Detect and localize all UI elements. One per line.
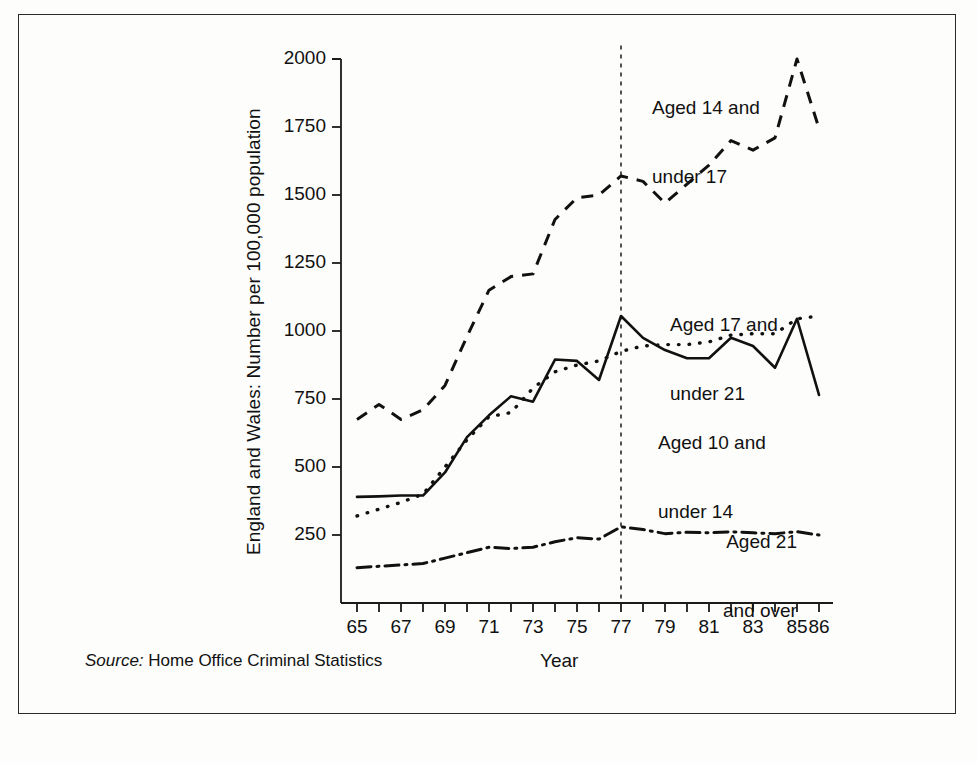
y-axis-tick-label: 1500 [240,183,326,205]
figure-page: England and Wales: Number per 100,000 po… [0,0,978,763]
annotation-aged-10-14-line1: Aged 10 and [658,431,766,454]
y-axis-tick-label: 250 [240,523,326,545]
y-axis-tick-label: 750 [240,387,326,409]
x-axis-tick-label: 69 [420,616,470,638]
x-axis-tick-label: 75 [552,616,602,638]
annotation-aged-14-17: Aged 14 and under 17 [652,50,760,234]
annotation-aged-14-17-line1: Aged 14 and [652,96,760,119]
x-axis-tick-label: 83 [728,616,778,638]
annotation-aged-17-21-line1: Aged 17 and [670,313,778,336]
y-axis-tick-label: 1250 [240,251,326,273]
y-axis-tick-label: 1000 [240,319,326,341]
x-axis-tick-label: 73 [508,616,558,638]
x-axis-tick-label: 81 [684,616,734,638]
chart-canvas [0,0,978,763]
annotation-aged-21-over: Aged 21 and over [723,484,797,668]
x-axis-tick-label: 71 [464,616,514,638]
x-axis-tick-label: 65 [332,616,382,638]
x-axis-tick-label: 79 [640,616,690,638]
y-axis-tick-label: 500 [240,455,326,477]
x-axis-tick-label: 67 [376,616,426,638]
y-axis-tick-label: 1750 [240,115,326,137]
x-axis-tick-label: 86 [794,616,844,638]
annotation-aged-21-over-line1: Aged 21 [723,530,797,553]
y-axis-tick-label: 2000 [240,47,326,69]
x-axis-tick-label: 77 [596,616,646,638]
annotation-aged-14-17-line2: under 17 [652,165,760,188]
